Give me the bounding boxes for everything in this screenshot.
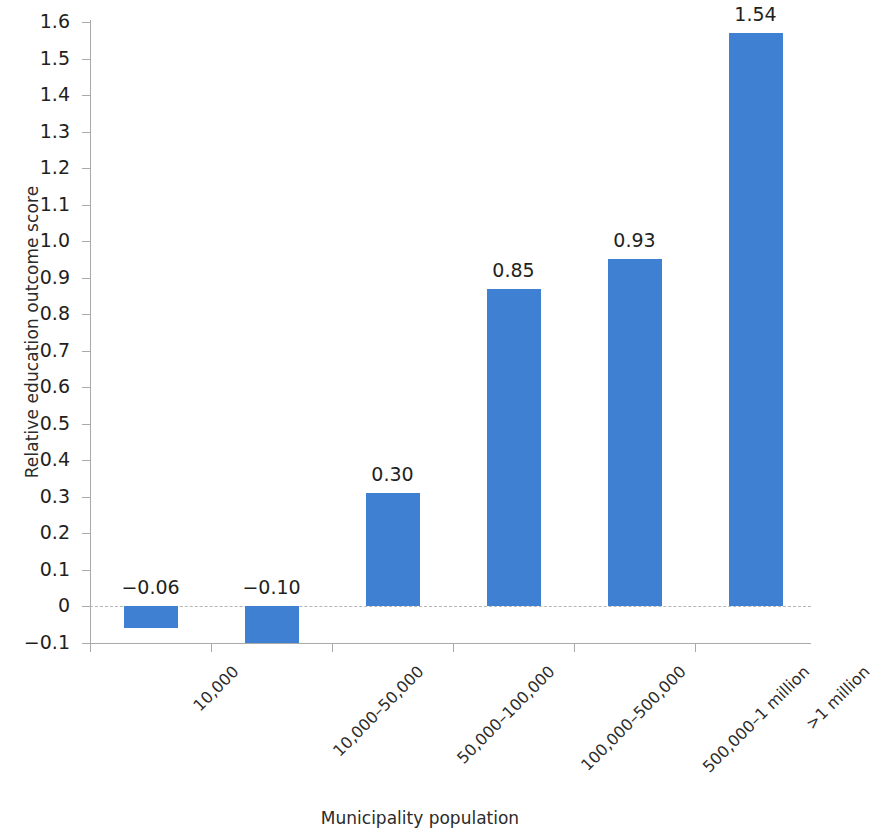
plot-area: 1.61.51.41.31.21.11.00.90.80.70.60.50.40… [90, 22, 811, 643]
y-axis-tick: 0.3 [82, 497, 90, 498]
bar [366, 493, 420, 606]
y-axis-tick: 0.6 [82, 387, 90, 388]
y-axis-tick-label: 0 [0, 594, 70, 616]
x-axis-tick [453, 643, 454, 652]
x-axis-title: Municipality population [90, 808, 750, 828]
bar [245, 606, 299, 643]
bar [487, 289, 541, 607]
y-axis-tick-label: 1.2 [0, 156, 70, 178]
bar-value-label: −0.10 [212, 576, 332, 598]
y-axis-tick-label: 0.5 [0, 412, 70, 434]
y-axis-tick-label: 1.4 [0, 83, 70, 105]
y-axis-tick: 1.2 [82, 168, 90, 169]
x-axis-category-label: 100,000–500,000 [577, 662, 690, 775]
y-axis-tick: 0.1 [82, 570, 90, 571]
bar-value-label: −0.06 [91, 576, 211, 598]
bar-value-label: 1.54 [696, 3, 816, 25]
y-axis-tick: 1.5 [82, 59, 90, 60]
x-axis-line [85, 643, 811, 644]
y-axis-tick-label: 1.1 [0, 193, 70, 215]
y-axis-tick-label: 0.8 [0, 302, 70, 324]
y-axis-tick-label: 1.0 [0, 229, 70, 251]
y-axis-tick: 0.2 [82, 533, 90, 534]
x-axis-category-label: >1 million [802, 662, 873, 733]
y-axis-tick-label: 0.6 [0, 375, 70, 397]
x-axis-tick [574, 643, 575, 652]
bar-value-label: 0.85 [454, 259, 574, 281]
bar [124, 606, 178, 628]
y-axis-tick: 0.4 [82, 460, 90, 461]
x-axis-tick [90, 643, 91, 652]
y-axis-tick-label: 1.3 [0, 120, 70, 142]
y-axis-tick: 1.3 [82, 132, 90, 133]
y-axis-tick: 1.0 [82, 241, 90, 242]
y-axis-tick-label: 0.2 [0, 521, 70, 543]
y-axis-tick: 0.5 [82, 424, 90, 425]
x-axis-category-label: 500,000–1 million [698, 662, 812, 776]
y-axis-tick: 0 [82, 606, 90, 607]
x-axis-category-label: 10,000 [189, 662, 242, 715]
y-axis-tick-label: 0.1 [0, 558, 70, 580]
bar-value-label: 0.30 [333, 463, 453, 485]
y-axis-tick-label: 1.5 [0, 47, 70, 69]
bar [729, 33, 783, 607]
y-axis-tick: 0.9 [82, 278, 90, 279]
y-axis-tick-label: −0.1 [0, 631, 70, 653]
y-axis-tick: 1.4 [82, 95, 90, 96]
y-axis-tick: 0.8 [82, 314, 90, 315]
x-axis-category-label: 50,000–100,000 [453, 662, 558, 767]
y-axis-tick-label: 0.7 [0, 339, 70, 361]
bar-value-label: 0.93 [575, 229, 695, 251]
y-axis-tick: 0.7 [82, 351, 90, 352]
y-axis-tick: 1.1 [82, 205, 90, 206]
y-axis-tick-label: 0.3 [0, 485, 70, 507]
y-axis-tick-label: 1.6 [0, 10, 70, 32]
x-axis-category-label: 10,000–50,000 [329, 662, 427, 760]
x-axis-tick [695, 643, 696, 652]
zero-reference-line [90, 606, 811, 607]
x-axis-tick [211, 643, 212, 652]
y-axis-tick-label: 0.9 [0, 266, 70, 288]
x-axis-tick [332, 643, 333, 652]
y-axis-tick: −0.1 [82, 643, 90, 644]
y-axis-tick: 1.6 [82, 22, 90, 23]
bar [608, 259, 662, 606]
y-axis-tick-label: 0.4 [0, 448, 70, 470]
